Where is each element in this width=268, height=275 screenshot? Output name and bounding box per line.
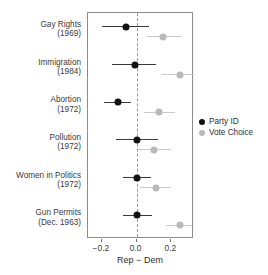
estimate-dot — [177, 71, 184, 78]
category-label-issue: Gay Rights — [0, 20, 81, 30]
estimate-dot — [123, 23, 130, 30]
zero-reference-line — [137, 13, 138, 237]
category-label-year: (Dec. 1963) — [0, 218, 81, 228]
x-axis-tick-mark — [101, 239, 102, 242]
category-label-year: (1984) — [0, 67, 81, 77]
x-axis-tick-mark — [170, 239, 171, 242]
category-label: Immigration(1984) — [0, 58, 81, 77]
x-axis-tick-label: 0.2 — [165, 243, 177, 253]
category-label: Gun Permits(Dec. 1963) — [0, 208, 81, 227]
category-label-issue: Gun Permits — [0, 208, 81, 218]
legend-item: Party ID — [199, 116, 253, 127]
legend-swatch-dot-icon — [199, 130, 205, 136]
category-label-year: (1972) — [0, 105, 81, 115]
estimate-dot — [151, 146, 158, 153]
estimate-dot — [159, 33, 166, 40]
legend-item-label: Party ID — [209, 117, 239, 126]
estimate-dot — [156, 109, 163, 116]
estimate-dot — [131, 61, 138, 68]
x-axis-tick-mark — [136, 239, 137, 242]
category-label-issue: Pollution — [0, 133, 81, 143]
estimate-dot — [114, 99, 121, 106]
category-label: Gay Rights(1969) — [0, 20, 81, 39]
legend-swatch-dot-icon — [199, 119, 205, 125]
x-axis-title: Rep − Dem — [87, 255, 193, 265]
category-label-year: (1972) — [0, 180, 81, 190]
category-label: Pollution(1972) — [0, 133, 81, 152]
x-axis-tick-label: −0.2 — [93, 243, 110, 253]
estimate-dot — [133, 174, 140, 181]
legend-item-label: Vote Choice — [209, 128, 253, 137]
category-label-issue: Women in Politics — [0, 171, 81, 181]
x-axis-tick-label: 0.0 — [130, 243, 142, 253]
category-label-issue: Abortion — [0, 95, 81, 105]
category-label-issue: Immigration — [0, 58, 81, 68]
legend: Party IDVote Choice — [199, 116, 253, 138]
estimate-dot — [177, 222, 184, 229]
legend-item: Vote Choice — [199, 127, 253, 138]
category-label-year: (1969) — [0, 29, 81, 39]
estimate-dot — [152, 184, 159, 191]
estimate-dot — [133, 136, 140, 143]
estimate-dot — [133, 212, 140, 219]
category-label: Women in Politics(1972) — [0, 171, 81, 190]
category-label-year: (1972) — [0, 142, 81, 152]
coefficient-plot-figure: Gay Rights(1969)Immigration(1984)Abortio… — [0, 0, 268, 275]
category-label: Abortion(1972) — [0, 95, 81, 114]
plot-area — [87, 12, 193, 238]
